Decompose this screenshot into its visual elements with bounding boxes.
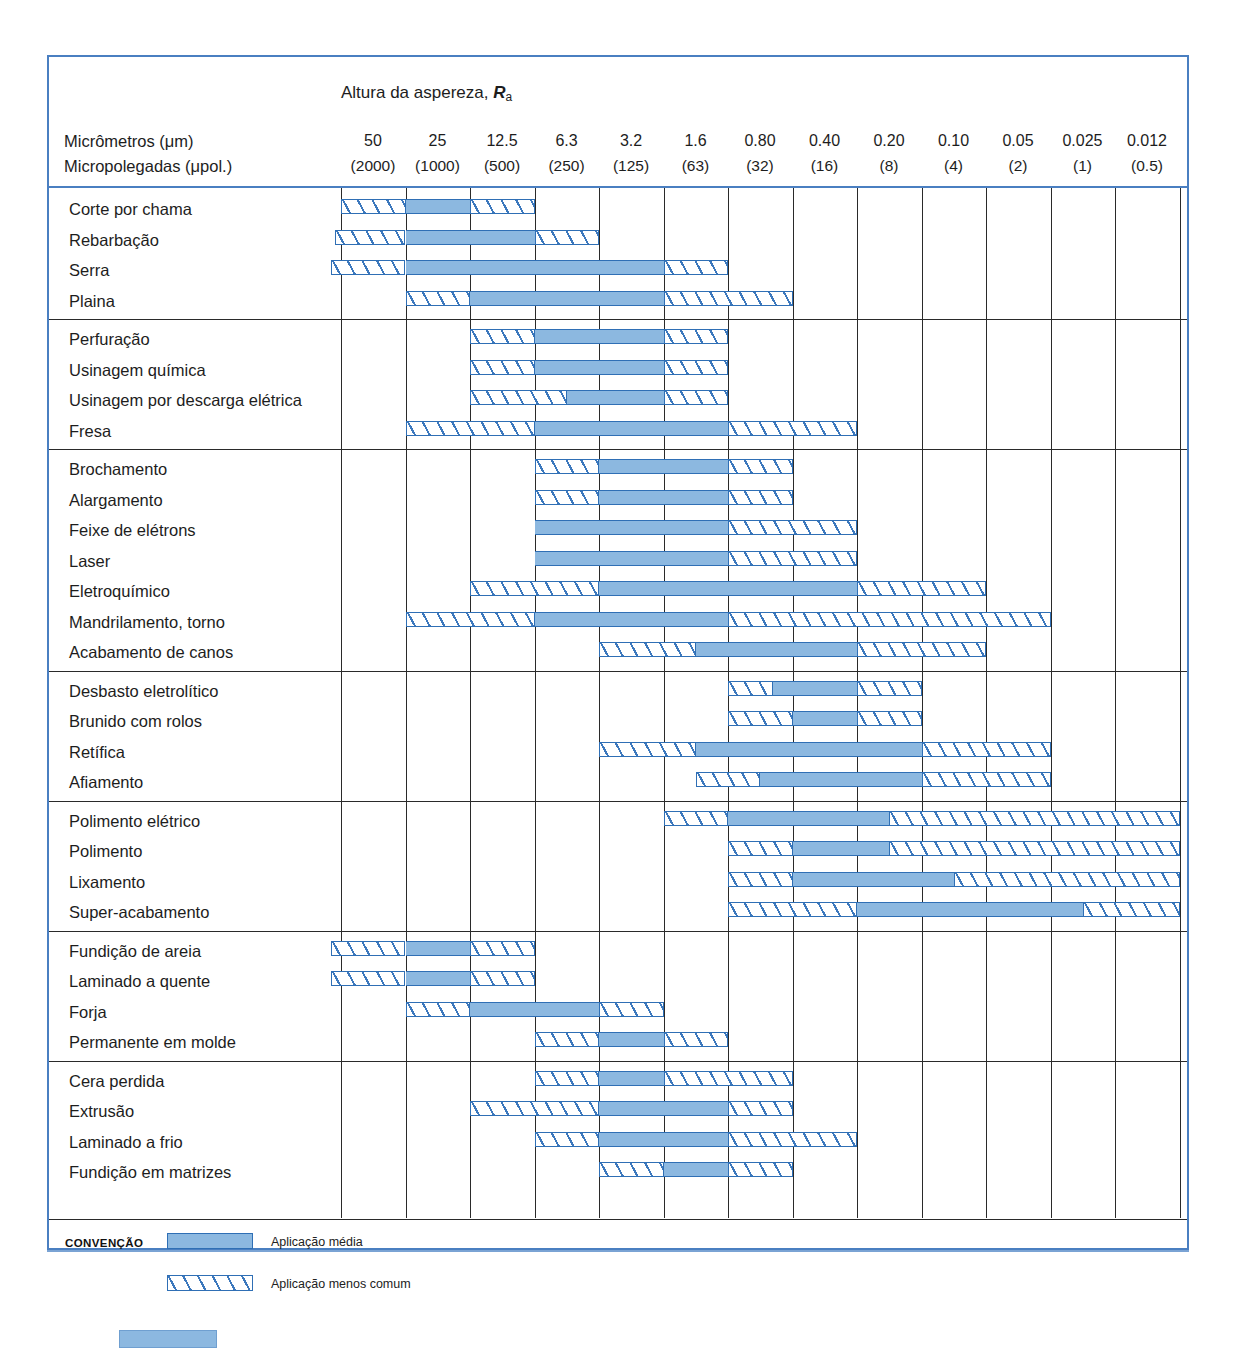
axis-tick-um-12: 0.012 — [1115, 132, 1179, 150]
bar-segment-average — [773, 681, 857, 696]
bar-segment-less-common — [664, 811, 729, 826]
bar-segment-average — [406, 199, 471, 214]
bar-segment-less-common — [470, 1101, 599, 1116]
bar-segment-less-common — [599, 742, 696, 757]
bar-segment-average — [535, 612, 729, 627]
roughness-bar — [49, 230, 1187, 245]
roughness-bar — [49, 811, 1187, 826]
bar-segment-average — [599, 1101, 728, 1116]
bar-segment-less-common — [728, 459, 793, 474]
bar-segment-less-common — [728, 612, 1051, 627]
axis-tick-uin-9: (4) — [922, 157, 986, 175]
bar-segment-less-common — [535, 459, 600, 474]
legend: CONVENÇÃO Aplicação média Aplicação meno… — [49, 1219, 1187, 1307]
bar-segment-less-common — [331, 971, 405, 986]
bar-segment-less-common — [728, 711, 793, 726]
roughness-bar — [49, 612, 1187, 627]
axis-tick-um-1: 25 — [406, 132, 470, 150]
bar-segment-average — [535, 421, 729, 436]
bar-segment-average — [406, 971, 471, 986]
bar-segment-less-common — [535, 1071, 600, 1086]
axis-tick-uin-0: (2000) — [341, 157, 405, 175]
legend-title: CONVENÇÃO — [65, 1237, 143, 1249]
bar-segment-average — [470, 291, 664, 306]
bar-segment-average — [664, 1162, 729, 1177]
bar-segment-less-common — [728, 841, 793, 856]
chart-title-static: Altura da aspereza, — [341, 83, 493, 102]
bar-segment-average — [760, 772, 921, 787]
roughness-bar — [49, 329, 1187, 344]
ra-symbol: Ra — [493, 83, 512, 102]
bar-segment-less-common — [331, 941, 405, 956]
roughness-bar — [49, 390, 1187, 405]
bar-segment-average — [857, 902, 1083, 917]
bar-segment-less-common — [728, 490, 793, 505]
roughness-bar — [49, 1071, 1187, 1086]
bar-segment-less-common — [728, 1162, 793, 1177]
roughness-bar — [49, 1101, 1187, 1116]
bar-segment-average — [728, 811, 889, 826]
roughness-bar — [49, 490, 1187, 505]
bar-segment-average — [793, 711, 858, 726]
bar-segment-average — [599, 581, 857, 596]
bar-segment-less-common — [406, 291, 471, 306]
bar-segment-less-common — [406, 421, 535, 436]
bar-segment-less-common — [728, 1132, 857, 1147]
group-separator-6 — [49, 1061, 1187, 1062]
bar-segment-less-common — [470, 390, 567, 405]
bar-segment-average — [535, 360, 664, 375]
axis-tick-uin-4: (125) — [599, 157, 663, 175]
roughness-bar — [49, 581, 1187, 596]
axis-tick-uin-10: (2) — [986, 157, 1050, 175]
axis-tick-um-9: 0.10 — [922, 132, 986, 150]
bar-segment-less-common — [535, 490, 600, 505]
axis-tick-um-2: 12.5 — [470, 132, 534, 150]
bar-segment-less-common — [470, 581, 599, 596]
roughness-bar — [49, 421, 1187, 436]
group-separator-2 — [49, 449, 1187, 450]
bottom-rule — [47, 1250, 1189, 1252]
bar-segment-less-common — [470, 941, 535, 956]
bar-segment-less-common — [335, 230, 406, 245]
roughness-bar — [49, 902, 1187, 917]
legend-label-media: Aplicação média — [271, 1235, 363, 1249]
legend-divider — [49, 1219, 1187, 1220]
axis-tick-uin-6: (32) — [728, 157, 792, 175]
bar-segment-average — [406, 230, 535, 245]
axis-tick-um-10: 0.05 — [986, 132, 1050, 150]
bar-segment-less-common — [1083, 902, 1180, 917]
bar-segment-less-common — [470, 971, 535, 986]
bar-segment-less-common — [599, 1002, 664, 1017]
bar-segment-less-common — [664, 1071, 793, 1086]
bar-segment-less-common — [331, 260, 405, 275]
plot-area: Corte por chamaRebarbaçãoSerraPlainaPerf… — [49, 188, 1187, 1218]
bar-segment-average — [406, 260, 664, 275]
chart-title: Altura da aspereza, Ra — [341, 83, 941, 104]
roughness-bar — [49, 199, 1187, 214]
roughness-bar — [49, 681, 1187, 696]
roughness-bar — [49, 872, 1187, 887]
roughness-bar — [49, 1132, 1187, 1147]
bar-segment-less-common — [470, 329, 535, 344]
bar-segment-average — [535, 520, 729, 535]
bar-segment-average — [406, 941, 471, 956]
bar-segment-average — [535, 551, 729, 566]
bar-segment-less-common — [857, 581, 986, 596]
axis-unit-micrometros: Micrômetros (μm) — [64, 132, 194, 151]
axis-tick-um-8: 0.20 — [857, 132, 921, 150]
roughness-bar — [49, 971, 1187, 986]
axis-tick-um-4: 3.2 — [599, 132, 663, 150]
bar-segment-less-common — [696, 772, 761, 787]
group-separator-5 — [49, 931, 1187, 932]
axis-tick-um-5: 1.6 — [664, 132, 728, 150]
bar-segment-average — [696, 742, 922, 757]
bar-segment-average — [599, 490, 728, 505]
roughness-bar — [49, 551, 1187, 566]
bar-segment-less-common — [922, 742, 1051, 757]
group-separator-4 — [49, 801, 1187, 802]
axis-tick-um-0: 50 — [341, 132, 405, 150]
roughness-bar — [49, 711, 1187, 726]
axis-tick-uin-8: (8) — [857, 157, 921, 175]
axis-tick-uin-11: (1) — [1051, 157, 1115, 175]
bar-segment-less-common — [889, 811, 1179, 826]
